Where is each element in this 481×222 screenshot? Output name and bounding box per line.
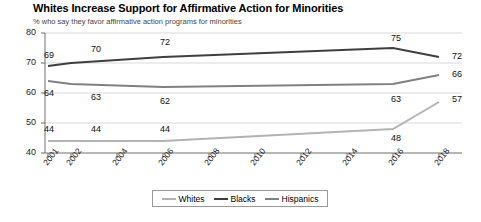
series-line-whites bbox=[48, 102, 439, 141]
legend-swatch-blacks-icon bbox=[214, 198, 228, 200]
legend-item-hispanics[interactable]: Hispanics bbox=[265, 194, 319, 204]
y-axis-label-40: 40 bbox=[14, 147, 36, 157]
series-line-hispanics bbox=[48, 75, 439, 87]
legend-item-whites[interactable]: Whites bbox=[162, 194, 205, 204]
chart-plot-area bbox=[0, 0, 481, 222]
data-label-whites-2016: 48 bbox=[391, 133, 401, 143]
legend-swatch-hispanics-icon bbox=[265, 198, 279, 200]
data-label-hispanics-2018: 66 bbox=[452, 69, 462, 79]
legend-label-whites: Whites bbox=[179, 194, 205, 204]
y-axis-label-60: 60 bbox=[14, 87, 36, 97]
legend-item-blacks[interactable]: Blacks bbox=[214, 194, 256, 204]
data-label-hispanics-2006: 62 bbox=[160, 96, 170, 106]
data-label-blacks-2001: 69 bbox=[44, 50, 54, 60]
data-label-blacks-2002: 70 bbox=[91, 44, 101, 54]
data-label-hispanics-2002: 63 bbox=[91, 92, 101, 102]
y-axis-label-70: 70 bbox=[14, 57, 36, 67]
y-axis-label-80: 80 bbox=[14, 27, 36, 37]
data-label-blacks-2016: 75 bbox=[391, 33, 401, 43]
data-label-hispanics-2016: 63 bbox=[391, 94, 401, 104]
data-label-blacks-2018: 72 bbox=[452, 51, 462, 61]
data-label-blacks-2006: 72 bbox=[160, 37, 170, 47]
chart-container: Whites Increase Support for Affirmative … bbox=[0, 0, 481, 222]
data-label-whites-2018: 57 bbox=[452, 94, 462, 104]
data-label-whites-2006: 44 bbox=[160, 124, 170, 134]
data-label-whites-2001: 44 bbox=[44, 124, 54, 134]
y-axis-label-50: 50 bbox=[14, 117, 36, 127]
legend-swatch-whites-icon bbox=[162, 198, 176, 200]
chart-legend: Whites Blacks Hispanics bbox=[152, 190, 328, 207]
legend-label-blacks: Blacks bbox=[231, 194, 256, 204]
data-label-whites-2002: 44 bbox=[91, 124, 101, 134]
legend-label-hispanics: Hispanics bbox=[282, 194, 319, 204]
data-label-hispanics-2001: 64 bbox=[44, 88, 54, 98]
